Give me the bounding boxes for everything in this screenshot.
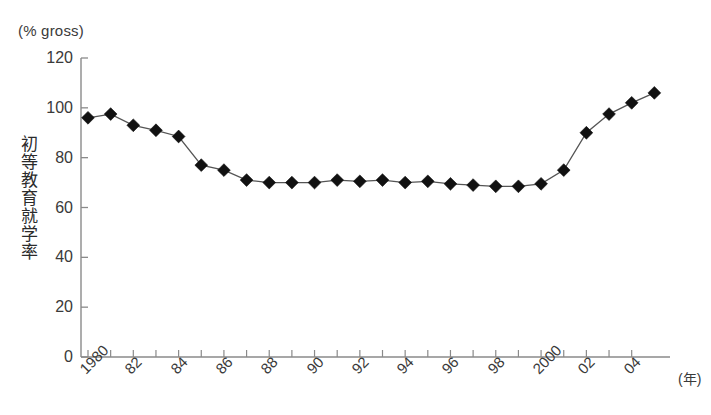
- data-point-marker: [625, 96, 638, 109]
- data-point-marker: [535, 177, 548, 190]
- data-point-marker: [150, 124, 163, 137]
- data-point-marker: [331, 174, 344, 187]
- data-point-marker: [104, 108, 117, 121]
- data-point-marker: [172, 130, 185, 143]
- data-point-marker: [467, 179, 480, 192]
- data-point-marker: [421, 175, 434, 188]
- y-tick-label: 100: [39, 100, 73, 116]
- data-markers: [82, 86, 661, 192]
- data-point-marker: [353, 175, 366, 188]
- data-point-marker: [82, 111, 95, 124]
- data-point-marker: [489, 180, 502, 193]
- data-point-marker: [557, 164, 570, 177]
- data-point-marker: [195, 159, 208, 172]
- data-point-marker: [263, 176, 276, 189]
- data-point-marker: [285, 176, 298, 189]
- data-point-marker: [444, 177, 457, 190]
- y-tick-label: 120: [39, 50, 73, 66]
- y-tick-label: 0: [39, 349, 73, 365]
- data-point-marker: [512, 180, 525, 193]
- data-point-marker: [308, 176, 321, 189]
- data-point-marker: [399, 176, 412, 189]
- y-tick-label: 60: [39, 200, 73, 216]
- data-point-marker: [240, 174, 253, 187]
- y-axis-ticks: [81, 58, 88, 357]
- axes: [81, 58, 670, 357]
- data-point-marker: [376, 174, 389, 187]
- y-tick-label: 20: [39, 299, 73, 315]
- y-tick-label: 40: [39, 249, 73, 265]
- data-point-marker: [648, 86, 661, 99]
- data-line: [88, 93, 654, 186]
- data-point-marker: [218, 164, 231, 177]
- chart-container: (% gross) 初等教育就学率 (年) 020406080100120 19…: [0, 0, 711, 415]
- y-tick-label: 80: [39, 150, 73, 166]
- data-point-marker: [127, 119, 140, 132]
